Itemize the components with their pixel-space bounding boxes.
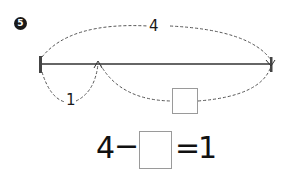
equation-right: 1 (198, 133, 217, 163)
part-label: 1 (66, 93, 76, 108)
equation-equals: = (175, 133, 200, 163)
left-end-bar (39, 56, 42, 73)
problem-number-badge: 5 (14, 17, 27, 30)
total-arc-right (170, 26, 271, 60)
diagram-unknown-box[interactable] (172, 88, 198, 114)
equation-operator: − (114, 131, 139, 161)
total-arc-left (42, 26, 148, 57)
equation-answer-box[interactable] (139, 131, 172, 169)
equation-left: 4 (96, 133, 115, 163)
total-label: 4 (149, 19, 159, 34)
